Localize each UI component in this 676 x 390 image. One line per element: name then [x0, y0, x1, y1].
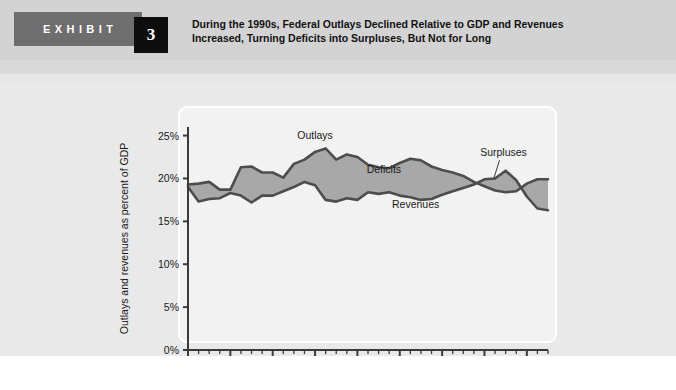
exhibit-label: EXHIBIT	[39, 23, 118, 35]
page-title-line-2: Increased, Turning Deficits into Surplus…	[192, 31, 662, 45]
annotation-deficits: Deficits	[367, 163, 401, 175]
y-tick-label: 15%	[158, 215, 179, 227]
y-tick-label: 25%	[158, 130, 179, 142]
chart-axes	[188, 127, 548, 350]
header-band-lower	[0, 60, 676, 74]
exhibit-number: 3	[147, 25, 156, 45]
annotation-revenues: Revenues	[392, 198, 439, 210]
exhibit-number-box: 3	[134, 17, 168, 53]
page-title: During the 1990s, Federal Outlays Declin…	[192, 17, 662, 45]
y-tick-label: 5%	[164, 301, 179, 313]
exhibit-badge: EXHIBIT	[14, 12, 142, 46]
y-tick-label: 0%	[164, 344, 179, 356]
chart-region-inner: 0%5%10%15%20%25%197019741978198219861990…	[0, 82, 676, 356]
footer-area	[0, 356, 676, 390]
exhibit-page: EXHIBIT 3 During the 1990s, Federal Outl…	[0, 0, 676, 390]
area-chart: 0%5%10%15%20%25%197019741978198219861990…	[0, 82, 676, 364]
y-tick-label: 20%	[158, 172, 179, 184]
y-axis-title: Outlays and revenues as percent of GDP	[118, 143, 130, 334]
annotation-surpluses: Surpluses	[480, 146, 527, 158]
annotation-outlays: Outlays	[297, 129, 333, 141]
chart-region: 0%5%10%15%20%25%197019741978198219861990…	[0, 74, 676, 356]
page-title-line-1: During the 1990s, Federal Outlays Declin…	[192, 17, 662, 31]
y-tick-label: 10%	[158, 258, 179, 270]
